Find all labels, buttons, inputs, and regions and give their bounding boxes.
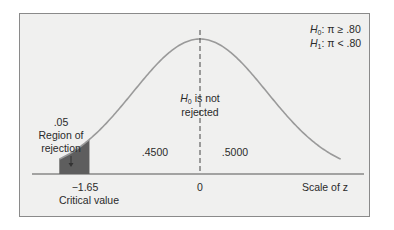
critical-value-caption: Critical value <box>59 194 119 206</box>
h0-hypothesis: H0: π ≥ .80 <box>310 23 361 36</box>
rejection-region-label-2: rejection <box>41 142 81 154</box>
rejection-area-value: .05 <box>54 116 69 128</box>
x-axis-label: Scale of z <box>302 181 348 193</box>
normal-curve-chart: H0: π ≥ .80 H1: π < .80 H0 is not reject… <box>0 0 394 230</box>
rejection-region-label-1: Region of <box>39 129 84 141</box>
h1-hypothesis: H1: π < .80 <box>310 37 361 50</box>
tick-label-critical: −1.65 <box>72 181 99 193</box>
area-label-right: .5000 <box>222 146 248 158</box>
tick-label-zero: 0 <box>197 181 203 193</box>
h0-not-rejected-line2: rejected <box>181 106 219 118</box>
area-label-left: .4500 <box>142 146 168 158</box>
h0-not-rejected-line1: H0 is not <box>180 92 220 105</box>
